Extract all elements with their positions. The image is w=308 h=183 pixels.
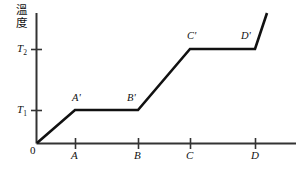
- plot-canvas: [0, 0, 308, 183]
- point-label-a-prime: A': [72, 93, 81, 104]
- point-label-d-prime: D': [241, 31, 251, 42]
- origin-label: 0: [30, 145, 36, 156]
- x-tick-label-b: B: [134, 150, 141, 161]
- point-label-c-prime: C': [187, 31, 196, 42]
- x-tick-label-a: A: [71, 150, 78, 161]
- x-tick-label-c: C: [186, 150, 193, 161]
- y-tick-label-t2: T2: [17, 43, 27, 57]
- y-tick-label-t2-sub: 2: [23, 48, 27, 57]
- point-label-b-prime: B': [127, 93, 136, 104]
- heating-curve-line: [37, 13, 267, 143]
- y-tick-label-t1: T1: [17, 104, 27, 118]
- heating-curve-figure: 溫度 0 T2 T1 A B C D A' B' C' D': [0, 0, 308, 183]
- y-tick-label-t1-sub: 1: [23, 109, 27, 118]
- x-tick-label-d: D: [251, 150, 259, 161]
